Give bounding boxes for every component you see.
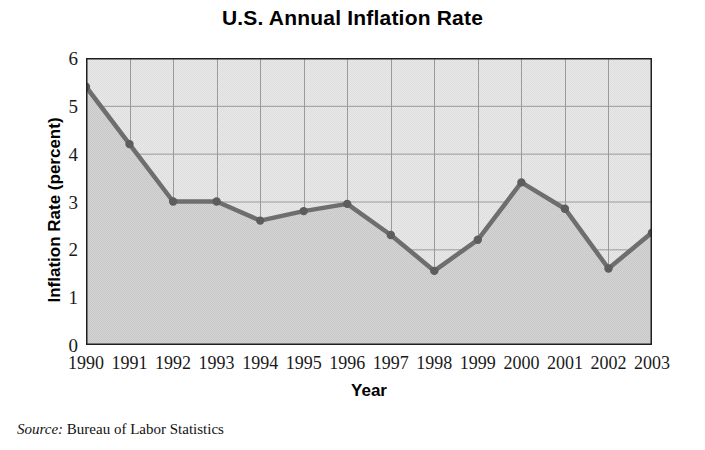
x-axis-title: Year [86, 381, 652, 401]
source-value: Bureau of Labor Statistics [67, 421, 224, 437]
data-point-marker [430, 267, 438, 275]
y-axis-tick-label: 5 [52, 97, 78, 116]
y-axis-tick-label: 1 [52, 288, 78, 307]
data-point-marker [561, 205, 569, 213]
source-label: Source: [17, 421, 63, 437]
data-point-marker [300, 207, 308, 215]
x-axis-tick-label: 2003 [626, 354, 678, 372]
data-point-marker [125, 140, 133, 148]
y-axis-tick-label: 6 [52, 49, 78, 68]
data-point-marker [387, 231, 395, 239]
source-note: Source: Bureau of Labor Statistics [17, 421, 224, 438]
chart-title: U.S. Annual Inflation Rate [0, 6, 705, 30]
data-point-marker [169, 197, 177, 205]
data-point-marker [604, 264, 612, 272]
y-axis-tick-label: 2 [52, 240, 78, 259]
data-point-marker [517, 178, 525, 186]
y-axis-tick-label: 3 [52, 193, 78, 212]
data-point-marker [256, 216, 264, 224]
data-point-marker [474, 236, 482, 244]
plot-area [86, 58, 652, 345]
data-point-marker [212, 197, 220, 205]
plot-svg [86, 58, 652, 345]
data-point-marker [343, 200, 351, 208]
y-axis-tick-label: 4 [52, 145, 78, 164]
inflation-rate-chart-figure: U.S. Annual Inflation Rate Inflation Rat… [0, 0, 705, 450]
